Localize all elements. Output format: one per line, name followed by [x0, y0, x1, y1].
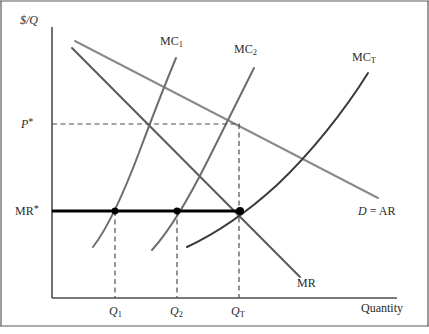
price-star-label-asterisk: *	[28, 116, 33, 127]
price-star-label: P*	[21, 117, 33, 130]
curve-marginal-cost-total	[187, 73, 368, 247]
y-axis-label: $/Q	[20, 14, 38, 26]
curve-label-mc2-base: MC	[234, 42, 253, 56]
curve-label-dar-base: D	[358, 204, 367, 218]
curve-label-marginal-revenue: MR	[297, 277, 316, 289]
x-tick-label-q1: Q1	[109, 305, 122, 320]
x-tick-label-q1-base: Q	[109, 304, 118, 318]
x-tick-label-q2-base: Q	[170, 304, 179, 318]
marginal-revenue-star-label: MR*	[15, 204, 39, 217]
equilibrium-dot-q1	[112, 208, 119, 215]
curve-label-mct-subscript: T	[371, 56, 376, 65]
equilibrium-dot-qt	[236, 207, 244, 215]
x-axis-label: Quantity	[361, 302, 403, 314]
x-tick-label-q1-subscript: 1	[118, 310, 122, 319]
curve-label-mc1-base: MC	[160, 34, 179, 48]
curve-label-mc2-subscript: 2	[253, 48, 257, 57]
x-tick-label-qt-subscript: T	[240, 310, 245, 319]
marginal-revenue-star-label-base: MR	[15, 204, 34, 218]
curve-label-marginal-cost-total: MCT	[352, 51, 376, 66]
curve-label-dar-rest: = AR	[367, 204, 396, 218]
x-tick-label-qt-base: Q	[231, 304, 240, 318]
x-tick-label-q2: Q2	[170, 305, 183, 320]
curve-label-mc1-subscript: 1	[179, 40, 183, 49]
marginal-revenue-star-label-asterisk: *	[34, 203, 39, 214]
x-tick-label-qt: QT	[231, 305, 245, 320]
curve-demand-average-revenue	[75, 41, 378, 198]
curve-marginal-cost-1	[93, 58, 176, 247]
curve-marginal-revenue	[72, 48, 300, 277]
curve-label-demand-average-revenue: D = AR	[358, 205, 395, 217]
economics-diagram-figure: $/Q Quantity P* MR* MC1 MC2 MCT D = AR M…	[0, 0, 429, 334]
curve-label-mct-base: MC	[352, 50, 371, 64]
x-tick-label-q2-subscript: 2	[179, 310, 183, 319]
equilibrium-dot-q2	[174, 208, 181, 215]
curve-label-marginal-cost-2: MC2	[234, 43, 257, 58]
curve-label-marginal-cost-1: MC1	[160, 35, 183, 50]
